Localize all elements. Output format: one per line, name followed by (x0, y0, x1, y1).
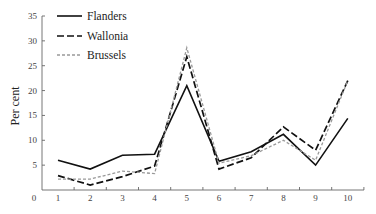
legend-label-flanders: Flanders (87, 10, 127, 22)
x-tick-label: 0 (32, 193, 37, 203)
y-tick-label: 30 (28, 36, 38, 46)
x-ticks: 012345678910 (32, 187, 364, 203)
x-tick-label: 6 (217, 193, 222, 203)
x-tick-label: 10 (343, 193, 353, 203)
y-tick-label: 20 (28, 86, 38, 96)
x-tick-label: 9 (313, 193, 318, 203)
y-tick-label: 10 (28, 135, 38, 145)
y-axis-title: Per cent (8, 86, 22, 126)
y-tick-label: 15 (28, 110, 38, 120)
x-tick-label: 8 (281, 193, 286, 203)
y-tick-label: 25 (28, 61, 38, 71)
series-lines (58, 48, 348, 185)
y-tick-label: 5 (33, 160, 38, 170)
legend-label-wallonia: Wallonia (87, 30, 128, 42)
series-line-flanders (58, 86, 348, 170)
y-tick-label: 35 (28, 11, 38, 21)
series-line-wallonia (58, 57, 348, 185)
x-tick-label: 7 (249, 193, 254, 203)
line-chart: 5101520253035 012345678910 Per cent Flan… (0, 0, 376, 214)
x-tick-label: 5 (185, 193, 190, 203)
x-tick-label: 4 (152, 193, 157, 203)
legend-label-brussels: Brussels (87, 49, 127, 61)
x-tick-label: 2 (88, 193, 93, 203)
x-tick-label: 1 (56, 193, 61, 203)
x-tick-label: 3 (120, 193, 125, 203)
legend: FlandersWalloniaBrussels (57, 10, 128, 61)
